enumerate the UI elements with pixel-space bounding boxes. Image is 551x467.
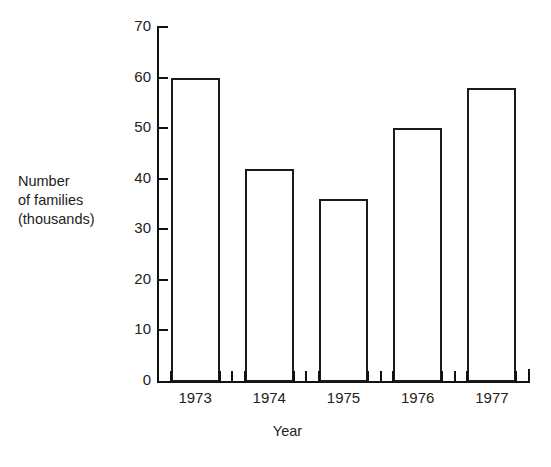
x-axis-label-1975: 1975 xyxy=(306,389,380,406)
x-axis-tick xyxy=(231,371,233,383)
y-axis-tick-label: 30 xyxy=(105,219,151,236)
y-axis-tick-label: 0 xyxy=(105,371,151,388)
x-axis-title: Year xyxy=(0,423,551,439)
bar-1976 xyxy=(393,128,442,382)
bar-1977 xyxy=(467,88,516,382)
bar-chart: Number of families (thousands) 706050403… xyxy=(0,0,551,467)
x-axis-label-1977: 1977 xyxy=(455,389,529,406)
y-axis-tick xyxy=(159,228,168,230)
x-axis-tick xyxy=(367,371,369,383)
x-axis-label-1973: 1973 xyxy=(158,389,232,406)
x-axis-tick xyxy=(318,371,320,383)
y-axis-tick-label: 50 xyxy=(105,118,151,135)
x-axis-tick xyxy=(392,371,394,383)
y-axis-tick-label: 20 xyxy=(105,270,151,287)
y-axis-tick xyxy=(159,127,168,129)
y-axis-title-line-1: Number xyxy=(18,172,95,191)
x-axis-label-1976: 1976 xyxy=(381,389,455,406)
y-axis-tick xyxy=(159,279,168,281)
x-axis-tick xyxy=(380,371,382,383)
x-axis-tick xyxy=(454,371,456,383)
x-axis-label-1974: 1974 xyxy=(232,389,306,406)
x-axis-tick xyxy=(515,371,517,383)
y-axis-title-line-2: of families xyxy=(18,191,95,210)
y-axis-tick xyxy=(159,26,168,28)
y-axis-title-line-3: (thousands) xyxy=(18,210,95,229)
y-axis-tick xyxy=(159,178,168,180)
y-axis-tick-label: 60 xyxy=(105,68,151,85)
y-axis-tick-label: 40 xyxy=(105,169,151,186)
x-axis-tick xyxy=(244,371,246,383)
x-axis-tick xyxy=(466,371,468,383)
x-axis-tick xyxy=(293,371,295,383)
y-axis-tick xyxy=(159,329,168,331)
x-axis-tick xyxy=(305,371,307,383)
y-axis-tick-label: 70 xyxy=(105,17,151,34)
bar-1974 xyxy=(245,169,294,382)
x-axis-tick xyxy=(441,371,443,383)
bar-1975 xyxy=(319,199,368,382)
y-axis-title: Number of families (thousands) xyxy=(18,172,95,229)
x-axis-end-tick xyxy=(528,369,530,383)
x-axis-tick xyxy=(219,371,221,383)
bar-1973 xyxy=(171,78,220,382)
x-axis-title-text: Year xyxy=(273,423,302,439)
y-axis-tick xyxy=(159,77,168,79)
y-axis-tick-label: 10 xyxy=(105,320,151,337)
x-axis-tick xyxy=(170,371,172,383)
